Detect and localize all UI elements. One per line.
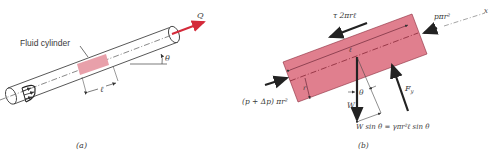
fluid-cylinder-label: Fluid cylinder	[20, 38, 70, 48]
caption-b: (b)	[358, 141, 369, 150]
left-pressure-label: (p + Δp) πr²	[242, 97, 288, 106]
right-pressure-label: pπr²	[434, 12, 450, 21]
flow-q-label: Q	[197, 11, 204, 20]
caption-a: (a)	[76, 141, 87, 150]
normal-force-label: Fy	[404, 84, 415, 95]
fluid-cylinder	[77, 54, 109, 75]
velocity-profile-icon	[22, 85, 35, 102]
angle-theta-label-a: θ	[165, 54, 170, 63]
length-label-a: ℓ	[100, 85, 104, 94]
weight-component-label: W sin θ = γπr²ℓ sin θ	[356, 123, 430, 131]
angle-theta-label-b: θ	[359, 88, 364, 97]
figure-b-free-body	[265, 13, 485, 121]
length-label-b: ℓ	[348, 46, 352, 54]
diagram-canvas: Fluid cylinder Q θ ℓ (a) τ 2πrℓ pπr² x (…	[0, 0, 490, 160]
weight-label: W	[347, 101, 356, 110]
shear-force-label: τ 2πrℓ	[333, 11, 357, 20]
x-axis-label: x	[484, 7, 488, 15]
